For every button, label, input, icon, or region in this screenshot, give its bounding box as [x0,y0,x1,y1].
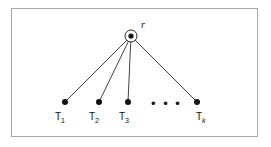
tree-graphic [0,0,271,147]
ellipsis-dots: • • • [151,97,182,110]
leaf-dot-tk [194,99,200,105]
figure-page: r T1 T2 T3 Tk • • • [0,0,271,147]
edge-root-tk [131,36,197,102]
leaf-label-t1-subscript: 1 [61,117,65,124]
leaf-label-t2-subscript: 2 [95,117,99,124]
leaf-dot-t2 [96,99,102,105]
edge-root-t1 [65,36,131,102]
root-node [125,30,137,42]
leaf-dot-t3 [125,99,131,105]
root-label: r [141,20,145,30]
leaf-label-tk-subscript: k [202,117,206,124]
leaf-label-t2: T2 [89,112,99,122]
leaf-label-t3: T3 [119,112,129,122]
edge-root-t3 [128,36,131,102]
root-dot [128,33,133,38]
leaf-label-t1: T1 [55,112,65,122]
tree-edges [65,36,197,102]
leaf-label-tk: Tk [196,112,206,122]
leaf-label-t3-subscript: 3 [125,117,129,124]
edge-root-t2 [99,36,131,102]
leaf-dot-t1 [62,99,68,105]
